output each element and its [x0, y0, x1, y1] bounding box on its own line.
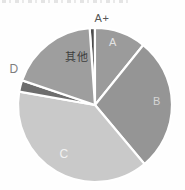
slice-label-other: 其他: [65, 52, 89, 63]
slice-label-a-plus: A+: [95, 13, 110, 24]
pie-chart-figure: A+ A B C D 其他: [0, 0, 185, 190]
slice-label-d: D: [9, 63, 18, 75]
slice-label-b: B: [153, 96, 161, 107]
slice-label-a: A: [109, 37, 117, 48]
slice-label-c: C: [59, 148, 68, 160]
